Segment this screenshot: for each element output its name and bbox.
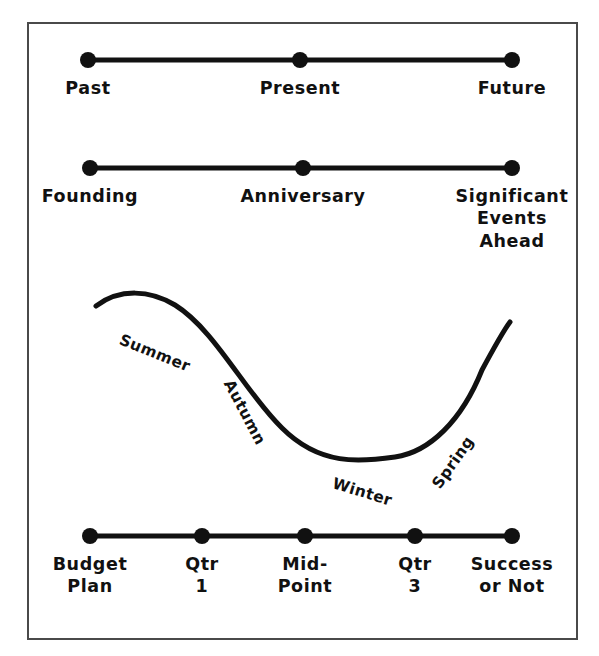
timeline-label: Future xyxy=(478,77,546,99)
page-frame xyxy=(27,22,578,640)
timeline-label: Significant Events Ahead xyxy=(456,185,569,252)
timeline-label: Mid- Point xyxy=(278,553,333,598)
timeline-label: Anniversary xyxy=(240,185,365,207)
infographic-page: PastPresentFutureFoundingAnniversarySign… xyxy=(0,0,599,656)
timeline-label: Qtr 1 xyxy=(185,553,219,598)
timeline-label: Qtr 3 xyxy=(398,553,432,598)
timeline-label: Budget Plan xyxy=(53,553,128,598)
timeline-label: Founding xyxy=(42,185,139,207)
timeline-label: Present xyxy=(260,77,341,99)
timeline-label: Past xyxy=(65,77,110,99)
timeline-label: Success or Not xyxy=(471,553,554,598)
